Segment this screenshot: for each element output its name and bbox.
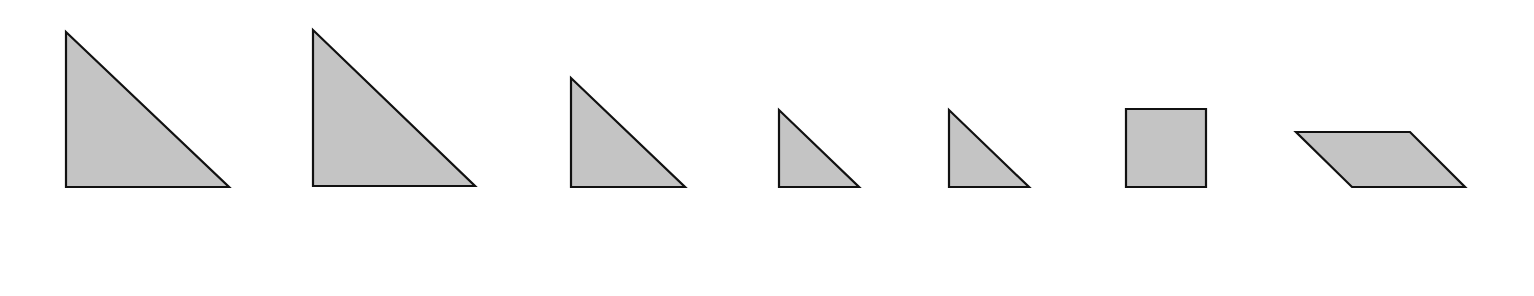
small-triangle-2 xyxy=(949,110,1029,187)
tangram-diagram xyxy=(0,0,1534,296)
medium-triangle xyxy=(571,78,685,187)
small-triangle-1 xyxy=(779,110,859,187)
large-triangle-2 xyxy=(313,30,475,186)
large-triangle-1 xyxy=(66,32,229,187)
parallelogram xyxy=(1296,132,1465,187)
shapes-canvas xyxy=(0,0,1534,296)
square xyxy=(1126,109,1206,187)
